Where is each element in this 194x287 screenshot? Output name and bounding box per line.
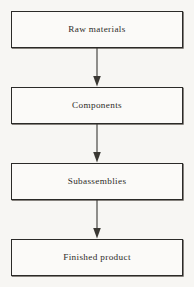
flow-node-raw-materials: Raw materials [11,11,183,48]
flow-node-label: Finished product [63,253,131,262]
flow-node-finished-product: Finished product [11,239,183,276]
down-arrow-icon [90,200,104,239]
flow-node-subassemblies: Subassemblies [11,163,183,200]
down-arrow-icon [90,124,104,163]
flow-node-components: Components [11,87,183,124]
flow-diagram: Raw materials Components Subassemblies F… [0,0,194,287]
flow-node-label: Components [72,101,122,110]
flow-node-label: Raw materials [68,25,125,34]
down-arrow-icon [90,48,104,87]
flow-node-label: Subassemblies [68,177,127,186]
